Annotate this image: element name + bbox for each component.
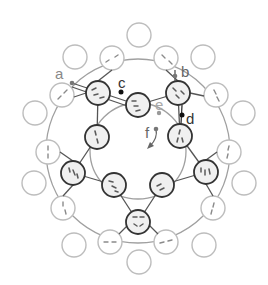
diagram-canvas: a b c d e f xyxy=(0,0,268,285)
label-f: f xyxy=(145,124,150,141)
point-a xyxy=(70,81,75,86)
dark-circles xyxy=(61,81,218,234)
label-e: e xyxy=(155,96,163,113)
point-d xyxy=(180,113,185,118)
label-b: b xyxy=(181,63,189,80)
label-c: c xyxy=(118,74,126,91)
point-f xyxy=(154,127,159,132)
point-b xyxy=(173,74,178,79)
label-d: d xyxy=(186,110,194,127)
label-a: a xyxy=(55,65,64,82)
